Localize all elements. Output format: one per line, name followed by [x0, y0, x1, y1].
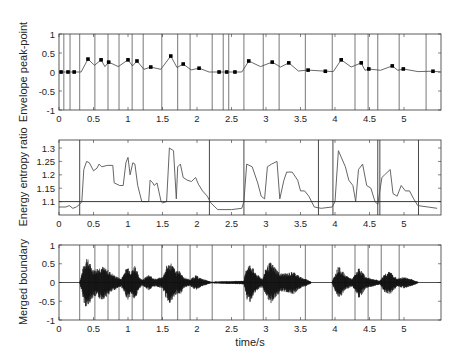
peak-point-marker	[107, 60, 111, 64]
figure: 00.511.522.533.544.55-1-0.500.51 00.511.…	[0, 0, 462, 360]
y-tick-label: -1	[47, 315, 55, 326]
x-tick-label: 3.5	[294, 218, 307, 229]
x-tick-label: 1.5	[156, 323, 169, 334]
peak-point-marker	[72, 70, 76, 74]
x-tick-label: 3.5	[294, 113, 307, 124]
y-axis-label-merged: Merged boundary	[17, 238, 29, 325]
peak-point-marker	[233, 70, 237, 74]
y-tick-label: -0.5	[39, 296, 55, 307]
peak-point-marker	[339, 58, 343, 62]
peak-point-marker	[225, 70, 229, 74]
peak-point-marker	[390, 64, 394, 68]
peak-point-marker	[86, 57, 90, 61]
y-tick-label: 1	[50, 29, 55, 40]
y-tick-label: 1.3	[42, 143, 55, 154]
x-tick-label: 0	[56, 113, 61, 124]
energy-entropy-ratio-plot: 00.511.522.533.544.551.11.151.21.251.3	[37, 140, 442, 229]
y-tick-label: 0	[50, 67, 55, 78]
x-tick-label: 2	[194, 218, 199, 229]
x-tick-label: 3	[263, 323, 268, 334]
y-tick-label: 0.5	[42, 258, 55, 269]
x-tick-label: 4.5	[363, 113, 376, 124]
peak-point-marker	[431, 69, 435, 73]
x-tick-label: 4	[332, 323, 337, 334]
peak-point-marker	[135, 59, 139, 63]
x-tick-label: 4	[332, 218, 337, 229]
y-tick-label: 1	[50, 240, 55, 251]
peak-point-marker	[287, 61, 291, 65]
peak-point-marker	[169, 54, 173, 58]
x-tick-label: 3	[263, 113, 268, 124]
y-tick-label: 1.1	[42, 196, 55, 207]
x-tick-label: 3.5	[294, 323, 307, 334]
peak-point-marker	[247, 59, 251, 63]
envelope-peak-point-plot: 00.511.522.533.544.55-1-0.500.51	[39, 29, 441, 125]
x-tick-label: 2	[194, 113, 199, 124]
peak-point-marker	[402, 67, 406, 71]
x-tick-label: 5	[401, 218, 406, 229]
y-tick-label: 1.15	[37, 183, 56, 194]
y-tick-label: 0	[50, 277, 55, 288]
x-tick-label: 1.5	[156, 113, 169, 124]
x-tick-label: 1	[125, 113, 130, 124]
x-tick-label: 0	[56, 218, 61, 229]
x-tick-label: 0	[56, 323, 61, 334]
peak-point-marker	[306, 68, 310, 72]
x-tick-label: 4	[332, 113, 337, 124]
y-tick-label: 1.25	[37, 156, 56, 167]
peak-point-marker	[359, 61, 363, 65]
y-tick-label: -0.5	[39, 86, 55, 97]
x-tick-label: 0.5	[87, 113, 100, 124]
peak-point-marker	[126, 58, 130, 62]
y-tick-label: 1.2	[42, 169, 55, 180]
peak-point-marker	[367, 67, 371, 71]
peak-point-marker	[181, 62, 185, 66]
peak-point-marker	[99, 58, 103, 62]
x-tick-label: 5	[401, 113, 406, 124]
x-tick-label: 0.5	[87, 323, 100, 334]
x-tick-label: 2.5	[225, 113, 238, 124]
peak-point-marker	[217, 70, 221, 74]
y-tick-label: -1	[47, 105, 55, 116]
x-tick-label: 2.5	[225, 218, 238, 229]
x-tick-label: 5	[401, 323, 406, 334]
merged-boundary-plot: 00.511.522.533.544.55-1-0.500.51	[39, 240, 441, 335]
peak-point-marker	[197, 66, 201, 70]
y-tick-label: 0.5	[42, 48, 55, 59]
x-tick-label: 1	[125, 218, 130, 229]
x-tick-label: 2.5	[225, 323, 238, 334]
x-tick-label: 1.5	[156, 218, 169, 229]
x-axis-label: time/s	[235, 336, 265, 348]
x-tick-label: 2	[194, 323, 199, 334]
peak-point-marker	[66, 70, 70, 74]
y-axis-label-entropy: Energy entropy ratio	[17, 127, 29, 226]
x-tick-label: 3	[263, 218, 268, 229]
y-axis-label-envelope: Envelope peak-point	[17, 22, 29, 122]
x-tick-label: 4.5	[363, 218, 376, 229]
x-tick-label: 0.5	[87, 218, 100, 229]
peak-point-marker	[59, 70, 63, 74]
peak-point-marker	[149, 65, 153, 69]
peak-point-marker	[270, 60, 274, 64]
peak-point-marker	[324, 69, 328, 73]
x-tick-label: 4.5	[363, 323, 376, 334]
x-tick-label: 1	[125, 323, 130, 334]
